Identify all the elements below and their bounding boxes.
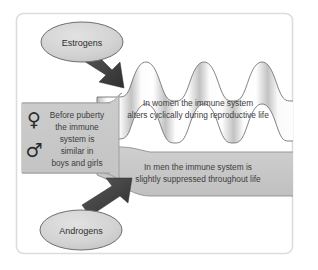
node-estrogens-label: Estrogens	[62, 38, 103, 48]
node-estrogens[interactable]: Estrogens	[41, 22, 123, 62]
panel-line-2: the immune	[55, 122, 99, 132]
band-men-line-2: slightly suppressed throughout life	[135, 174, 261, 184]
diagram-canvas: ♀ ♂ Before puberty the immune system is …	[0, 0, 318, 270]
band-men-line-1: In men the immune system is	[144, 162, 252, 172]
panel-line-5: boys and girls	[51, 158, 102, 168]
panel-line-4: similar in	[61, 146, 94, 156]
panel-line-3: system is	[60, 134, 95, 144]
node-androgens-label: Androgens	[59, 226, 103, 236]
node-androgens[interactable]: Androgens	[40, 210, 122, 250]
band-women-line-2: alters cyclically during reproductive li…	[127, 110, 269, 120]
male-symbol-icon: ♂	[25, 139, 42, 161]
panel-line-1: Before puberty	[50, 110, 105, 120]
band-women-line-1: In women the immune system	[143, 98, 253, 108]
female-symbol-icon: ♀	[27, 108, 41, 130]
